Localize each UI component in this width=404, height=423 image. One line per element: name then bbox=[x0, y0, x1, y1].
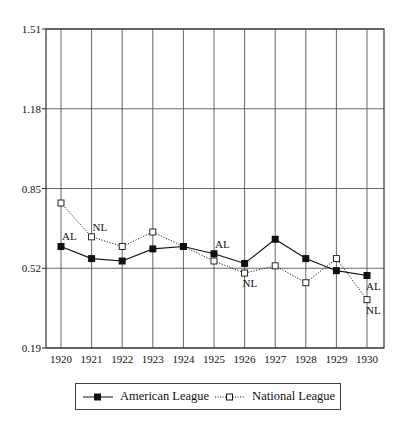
open-square-marker bbox=[150, 229, 156, 235]
series-annotation: NL bbox=[243, 277, 258, 289]
x-tick-label: 1930 bbox=[356, 353, 379, 365]
filled-square-marker bbox=[211, 250, 218, 257]
series-annotation: NL bbox=[93, 221, 108, 233]
y-tick-label: 0.19 bbox=[22, 342, 42, 354]
filled-square-marker bbox=[119, 258, 126, 265]
filled-square-marker bbox=[180, 243, 187, 250]
open-square-marker bbox=[211, 258, 217, 264]
series-annotation: AL bbox=[215, 238, 230, 250]
filled-square-marker bbox=[302, 255, 309, 262]
open-square-marker bbox=[303, 280, 309, 286]
x-tick-label: 1928 bbox=[295, 353, 318, 365]
y-tick-label: 1.18 bbox=[22, 103, 42, 115]
x-tick-label: 1929 bbox=[325, 353, 348, 365]
open-square-marker bbox=[364, 297, 370, 303]
legend: American League National League bbox=[75, 383, 341, 410]
x-tick-label: 1920 bbox=[50, 353, 73, 365]
axes: 1920192119221923192419251926192719281929… bbox=[22, 23, 384, 365]
series-annotation: NL bbox=[366, 304, 381, 316]
x-tick-label: 1926 bbox=[234, 353, 257, 365]
y-tick-label: 0.85 bbox=[22, 183, 42, 195]
open-square-marker bbox=[89, 234, 95, 240]
open-square-marker-icon bbox=[213, 392, 247, 402]
x-tick-label: 1924 bbox=[172, 353, 195, 365]
x-tick-label: 1921 bbox=[81, 353, 103, 365]
x-tick-label: 1922 bbox=[111, 353, 133, 365]
filled-square-marker-icon bbox=[81, 392, 115, 402]
x-tick-label: 1927 bbox=[264, 353, 287, 365]
x-tick-label: 1925 bbox=[203, 353, 226, 365]
line-chart: 1920192119221923192419251926192719281929… bbox=[0, 0, 404, 423]
open-square-marker bbox=[333, 256, 339, 262]
filled-square-marker bbox=[333, 267, 340, 274]
legend-item-american-league: American League bbox=[81, 389, 209, 404]
filled-square-marker bbox=[58, 243, 65, 250]
open-square-marker bbox=[119, 244, 125, 250]
legend-label: National League bbox=[252, 389, 335, 404]
series-annotation: AL bbox=[366, 280, 381, 292]
y-tick-label: 0.52 bbox=[22, 262, 41, 274]
y-tick-label: 1.51 bbox=[22, 23, 41, 35]
x-tick-label: 1923 bbox=[142, 353, 165, 365]
legend-item-national-league: National League bbox=[213, 389, 335, 404]
series-annotation: AL bbox=[62, 230, 77, 242]
grid-lines bbox=[46, 29, 384, 348]
filled-square-marker bbox=[149, 245, 156, 252]
filled-square-marker bbox=[241, 260, 248, 267]
filled-square-marker bbox=[364, 272, 371, 279]
open-square-marker bbox=[58, 200, 64, 206]
open-square-marker bbox=[272, 263, 278, 269]
filled-square-marker bbox=[272, 236, 279, 243]
filled-square-marker bbox=[88, 255, 95, 262]
legend-label: American League bbox=[120, 389, 209, 404]
open-square-marker bbox=[242, 270, 248, 276]
